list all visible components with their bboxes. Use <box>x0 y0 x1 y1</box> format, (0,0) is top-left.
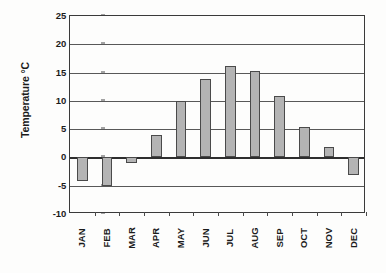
bar <box>299 127 309 158</box>
bar <box>77 157 87 180</box>
bar <box>348 157 358 175</box>
y-axis-tick-label: 20 <box>36 38 66 49</box>
x-axis-tick-label: DEC <box>331 216 375 260</box>
y-axis-tick-label: 15 <box>36 66 66 77</box>
bar <box>250 71 260 158</box>
y-axis-title-text: Temperature °C <box>19 62 31 138</box>
y-axis-tick-label: 10 <box>36 94 66 105</box>
bar <box>324 147 334 157</box>
bar <box>225 66 235 158</box>
y-axis-tick-label: 0 <box>36 151 66 162</box>
y-axis-tick-label: -5 <box>36 179 66 190</box>
bar <box>176 101 186 158</box>
bar <box>151 135 161 157</box>
x-axis-tick-label-text: DEC <box>347 228 358 248</box>
bar <box>102 157 112 185</box>
y-axis-tick-label: 25 <box>36 10 66 21</box>
temperature-bar-chart: Temperature °C 2520151050-5-10 JANFEBMAR… <box>0 0 386 273</box>
plot-area <box>69 15 365 213</box>
bar <box>200 79 210 157</box>
y-axis-title: Temperature °C <box>16 30 34 170</box>
y-axis-tick-label: 5 <box>36 123 66 134</box>
bars-layer <box>70 16 364 212</box>
bar <box>126 157 136 163</box>
x-axis-tick-labels: JANFEBMARAPRMAYJUNJULAUGSEPOCTNOVDEC <box>69 216 365 266</box>
bar <box>274 96 284 157</box>
